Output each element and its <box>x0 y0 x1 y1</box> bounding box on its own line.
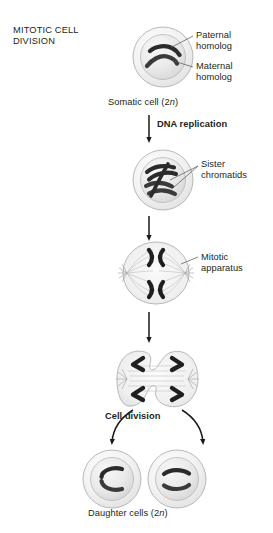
label-maternal-homolog: Maternal homolog <box>196 61 233 83</box>
label-mitotic-apparatus: Mitotic apparatus <box>201 252 243 274</box>
step-label-cell-division: Cell division <box>105 411 160 422</box>
page-title-line-1: MITOTIC CELL <box>13 25 79 36</box>
label-paternal-homolog-line-2: homolog <box>196 41 232 52</box>
caption-daughter-cells-prefix: Daughter cells (2 <box>88 508 159 518</box>
cleaving-cell-outline <box>117 351 198 407</box>
label-sister-chromatids-line-2: chromatids <box>201 170 247 181</box>
label-paternal-homolog: Paternal homolog <box>196 30 232 52</box>
mitotic-cell-division-figure: MITOTIC CELL DIVISION Paternal homolog M… <box>0 0 273 533</box>
label-maternal-homolog-line-1: Maternal <box>196 61 233 72</box>
arrow-cell-division-right <box>182 410 203 442</box>
label-mitotic-apparatus-line-2: apparatus <box>201 263 243 274</box>
label-paternal-homolog-line-1: Paternal <box>196 30 232 41</box>
page-title-line-2: DIVISION <box>13 36 79 47</box>
label-sister-chromatids-line-1: Sister <box>201 159 247 170</box>
label-maternal-homolog-line-2: homolog <box>196 72 233 83</box>
stage-replicated-chromosomes <box>133 150 193 210</box>
caption-daughter-cells: Daughter cells (2n) <box>88 508 168 519</box>
caption-somatic-cell: Somatic cell (2n) <box>108 97 178 108</box>
label-mitotic-apparatus-line-1: Mitotic <box>201 252 243 263</box>
stage-anaphase <box>116 351 199 407</box>
stage-daughter-cell-left <box>83 450 141 508</box>
stage-metaphase <box>118 242 194 304</box>
caption-somatic-cell-prefix: Somatic cell (2 <box>108 97 170 107</box>
stage-somatic-cell <box>133 27 193 87</box>
page-title: MITOTIC CELL DIVISION <box>13 25 79 47</box>
step-label-dna-replication: DNA replication <box>157 119 227 130</box>
label-sister-chromatids: Sister chromatids <box>201 159 247 181</box>
stage-daughter-cell-right <box>148 450 206 508</box>
caption-somatic-cell-suffix: ) <box>175 97 178 107</box>
caption-daughter-cells-suffix: ) <box>164 508 167 518</box>
